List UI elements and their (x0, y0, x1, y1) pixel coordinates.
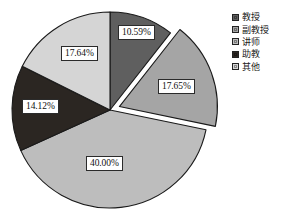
legend-item[interactable]: 其他 (232, 61, 287, 73)
pie-slice-data-label: 40.00% (86, 156, 123, 171)
legend-item[interactable]: 副教授 (232, 23, 287, 35)
legend-swatch-icon (232, 63, 239, 70)
legend-item-label: 助教 (242, 49, 260, 59)
legend-swatch-icon (232, 51, 239, 58)
legend-item[interactable]: 讲师 (232, 36, 287, 48)
legend-swatch-icon (232, 26, 239, 33)
pie-slice-data-label: 17.65% (158, 79, 195, 94)
legend-item-label: 其他 (242, 62, 260, 72)
legend-item-label: 教授 (242, 12, 260, 22)
legend-item[interactable]: 助教 (232, 48, 287, 60)
legend-item-label: 讲师 (242, 37, 260, 47)
legend-item-label: 副教授 (242, 25, 269, 35)
pie-slice-data-label: 14.12% (22, 99, 59, 114)
chart-legend: 教授副教授讲师助教其他 (232, 11, 287, 73)
legend-swatch-icon (232, 14, 239, 21)
pie-chart: 10.59%17.65%40.00%14.12%17.64% 教授副教授讲师助教… (0, 0, 289, 223)
pie-slice-data-label: 17.64% (61, 46, 98, 61)
pie-slice-data-label: 10.59% (118, 25, 155, 40)
legend-item[interactable]: 教授 (232, 11, 287, 23)
legend-swatch-icon (232, 38, 239, 45)
